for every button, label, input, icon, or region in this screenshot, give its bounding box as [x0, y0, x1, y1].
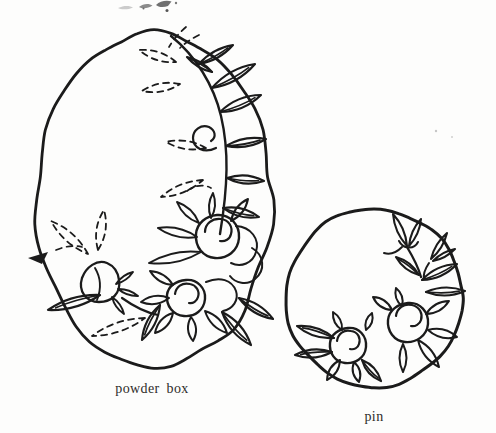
dashed-arc	[187, 186, 211, 191]
rose-center-lower	[167, 280, 205, 316]
caption-powder-box: powder box	[100, 381, 204, 397]
dashed-leaf	[92, 318, 145, 336]
rose-petal	[149, 251, 201, 263]
scan-smudge-marks	[118, 1, 453, 138]
bud-sepal-flick	[384, 247, 402, 254]
pin-figure	[286, 209, 465, 388]
powder-box-figure	[28, 27, 275, 368]
sepal	[112, 297, 124, 314]
rose-center-left	[330, 328, 366, 363]
rose-spiral-hook	[396, 305, 422, 327]
smudge-dot	[175, 2, 177, 4]
rose-center-upper	[196, 215, 239, 258]
rose-petal	[426, 301, 449, 314]
leaf-vein	[426, 291, 459, 293]
ruffle-petal	[206, 279, 237, 311]
rose-petal	[400, 344, 407, 372]
smudge-mark	[139, 4, 153, 8]
rose-spiral-hook	[205, 219, 232, 241]
vine-stem	[171, 36, 227, 234]
pattern-drawing	[0, 0, 496, 433]
smudge-dot	[451, 136, 453, 138]
dashed-leaf	[161, 180, 203, 197]
dashed-leaf	[96, 210, 106, 250]
rose-spiral-hook	[175, 284, 199, 304]
rose-petal	[158, 227, 197, 237]
rose-petal	[365, 313, 372, 330]
powder-box-dashed-leaves	[51, 50, 206, 336]
smudge-dot	[166, 9, 169, 12]
dashed-leaf	[139, 50, 176, 62]
rose-center-right	[388, 303, 428, 342]
sepal	[118, 289, 138, 296]
leaf-vein	[212, 68, 249, 88]
rose-petal	[188, 317, 196, 341]
scanned-pattern-page: powder box pin	[0, 0, 496, 433]
rose-petal	[333, 312, 342, 330]
rosebud-left	[28, 252, 158, 315]
rose-petal	[177, 202, 199, 223]
caption-pin: pin	[344, 409, 404, 425]
rose-petal	[150, 271, 173, 285]
smudge-mark	[156, 1, 172, 7]
rose-petal	[353, 362, 361, 382]
smudge-mark	[118, 6, 133, 9]
pin-leaf	[295, 349, 332, 357]
rose-petal	[141, 296, 169, 304]
rosebuds-top	[393, 214, 455, 261]
smudge-dot	[143, 8, 145, 10]
rose-spiral-hook	[337, 331, 360, 350]
rose-petal	[373, 297, 392, 310]
pin-leaves	[295, 257, 465, 381]
powder-box-scalloped-outline	[35, 30, 275, 369]
smudge-dot	[435, 130, 437, 132]
rose-petal	[418, 340, 439, 367]
dashed-leaf	[142, 83, 180, 92]
ruffle-petal	[231, 226, 257, 265]
